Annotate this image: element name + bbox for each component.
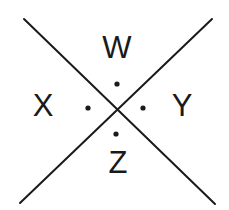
angle-dot-w [114,81,119,86]
angle-dot-z [113,131,118,136]
angle-dot-x [85,105,90,110]
angle-label-y: Y [172,88,193,123]
angle-label-x: X [33,88,54,123]
angle-label-z: Z [109,145,128,180]
vertical-angles-diagram: W X Y Z [0,0,229,210]
angle-label-w: W [102,30,132,65]
angle-dot-y [140,105,145,110]
